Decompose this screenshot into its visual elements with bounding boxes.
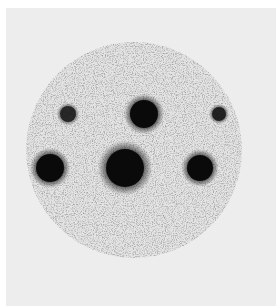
spot-top-left bbox=[60, 106, 76, 122]
spot-top-center bbox=[130, 100, 158, 128]
spot-bottom-center bbox=[106, 149, 144, 187]
spot-bottom-right bbox=[187, 155, 213, 181]
spot-top-right bbox=[212, 107, 226, 121]
diffraction-pattern bbox=[0, 0, 278, 307]
spot-bottom-left bbox=[36, 154, 64, 182]
